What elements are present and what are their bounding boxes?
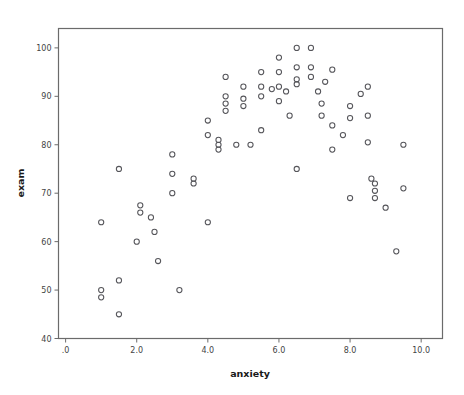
scatter-plot-figure: .02.04.06.08.010.0 405060708090100 anxie… [0,0,464,395]
x-axis-ticks: .02.04.06.08.010.0 [62,339,430,355]
scatter-plot-canvas: .02.04.06.08.010.0 405060708090100 anxie… [0,0,464,395]
y-tick-label: 60 [41,238,51,247]
x-tick-label: 2.0 [130,346,143,355]
y-tick-label: 50 [41,286,51,295]
y-tick-label: 90 [41,92,51,101]
plot-frame [59,29,443,339]
y-axis-ticks: 405060708090100 [36,44,58,344]
x-axis-title: anxiety [230,368,271,379]
y-tick-label: 40 [41,335,51,344]
y-axis-title: exam [15,168,26,197]
x-tick-label: 6.0 [273,346,286,355]
x-tick-label: 8.0 [344,346,357,355]
y-tick-label: 100 [36,44,51,53]
y-tick-label: 70 [41,189,51,198]
x-tick-label: 4.0 [201,346,214,355]
x-tick-label: .0 [62,346,70,355]
y-tick-label: 80 [41,141,51,150]
x-tick-label: 10.0 [412,346,430,355]
